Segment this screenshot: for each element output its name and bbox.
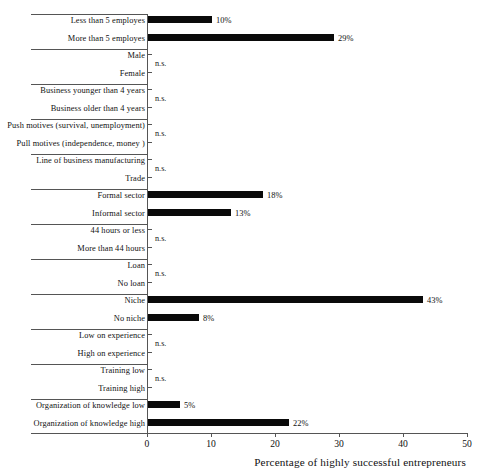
group-separator: [31, 84, 148, 85]
category-axis: [147, 14, 148, 433]
axis-tick-label: 50: [452, 438, 477, 449]
axis-tick: [147, 433, 148, 437]
category-label: Training high: [98, 384, 145, 394]
category-label: More than 44 hours: [77, 244, 145, 254]
bar-value-label: 10%: [216, 16, 231, 25]
not-significant-marker: n.s.: [155, 339, 166, 348]
axis-tick-label: 40: [388, 438, 418, 449]
not-significant-marker: n.s.: [155, 129, 166, 138]
category-label: No niche: [114, 314, 145, 324]
bar: [148, 296, 423, 303]
category-label: Training low: [101, 366, 145, 376]
bar-value-label: 18%: [267, 191, 282, 200]
axis-tick: [467, 433, 468, 437]
category-label: Organization of knowledge high: [34, 419, 145, 429]
bar-value-label: 5%: [184, 401, 195, 410]
bar: [148, 191, 263, 198]
axis-tick: [403, 433, 404, 437]
category-label: Female: [120, 69, 145, 79]
bar: [148, 16, 212, 23]
not-significant-marker: n.s.: [155, 94, 166, 103]
not-significant-marker: n.s.: [155, 269, 166, 278]
not-significant-marker: n.s.: [155, 374, 166, 383]
not-significant-marker: n.s.: [155, 234, 166, 243]
bar: [148, 401, 180, 408]
axis-tick-label: 0: [132, 438, 162, 449]
value-axis: [147, 433, 467, 434]
category-label: Less than 5 employes: [71, 16, 145, 26]
group-separator: [31, 14, 148, 15]
bar: [148, 209, 231, 216]
category-label: Formal sector: [97, 191, 145, 201]
category-label: Organization of knowledge low: [36, 401, 145, 411]
axis-tick-label: 20: [260, 438, 290, 449]
bar-value-label: 29%: [338, 34, 353, 43]
category-label: 44 hours or less: [91, 226, 145, 236]
category-label: Pull motives (independence, money ): [17, 139, 145, 149]
bar: [148, 314, 199, 321]
category-label: Line of business manufacturing: [36, 156, 145, 166]
group-separator: [31, 433, 148, 434]
axis-tick: [211, 433, 212, 437]
category-label: Business younger than 4 years: [40, 86, 145, 96]
group-separator: [31, 189, 148, 190]
group-separator: [31, 329, 148, 330]
category-label: High on experience: [78, 349, 145, 359]
category-label: Loan: [127, 261, 145, 271]
category-label: Push motives (survival, unemployment): [7, 121, 145, 131]
axis-tick-label: 30: [324, 438, 354, 449]
not-significant-marker: n.s.: [155, 59, 166, 68]
bar-value-label: 8%: [203, 314, 214, 323]
x-axis-title: Percentage of highly successful entrepre…: [0, 455, 466, 469]
bar: [148, 419, 289, 426]
bar-value-label: 22%: [293, 419, 308, 428]
group-separator: [31, 119, 148, 120]
group-separator: [31, 224, 148, 225]
bar-value-label: 13%: [235, 209, 250, 218]
category-label: Informal sector: [92, 209, 145, 219]
category-label: No loan: [118, 279, 145, 289]
group-separator: [31, 49, 148, 50]
axis-tick-label: 10: [196, 438, 226, 449]
category-label: More than 5 employes: [68, 34, 145, 44]
group-separator: [31, 154, 148, 155]
group-separator: [31, 399, 148, 400]
plot-area: Less than 5 employes 10% More than 5 emp…: [0, 0, 472, 440]
bar: [148, 34, 334, 41]
axis-tick: [339, 433, 340, 437]
bar-value-label: 43%: [427, 296, 442, 305]
category-label: Niche: [125, 296, 146, 306]
category-label: Male: [127, 51, 145, 61]
group-separator: [31, 294, 148, 295]
group-separator: [31, 364, 148, 365]
category-label: Business older than 4 years: [51, 104, 145, 114]
axis-tick: [275, 433, 276, 437]
not-significant-marker: n.s.: [155, 164, 166, 173]
group-separator: [31, 259, 148, 260]
category-label: Trade: [125, 174, 145, 184]
category-label: Low on experience: [79, 331, 145, 341]
